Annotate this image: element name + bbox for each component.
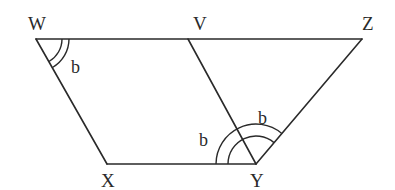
vertex-label-w: W <box>28 13 46 34</box>
angle-label-y-upper: b <box>258 108 267 128</box>
geometry-diagram: W V Z X Y b b b <box>0 0 395 190</box>
vertex-label-v: V <box>193 13 207 34</box>
vertex-label-z: Z <box>362 13 374 34</box>
angle-arc-w-outer <box>53 39 70 68</box>
angle-label-y-lower: b <box>199 130 208 150</box>
vertex-label-x: X <box>101 170 115 190</box>
vertex-label-y: Y <box>250 170 264 190</box>
angle-label-w: b <box>71 57 80 77</box>
angle-arc-w-inner <box>49 39 62 62</box>
segment-yz <box>256 39 362 164</box>
